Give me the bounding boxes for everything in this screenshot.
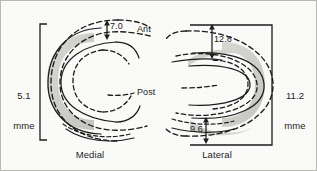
figure-container: 5.1 mme 7.0 Ant Post Medial 12.8 9.6 11.… <box>0 0 317 171</box>
lateral-height-units: mme <box>279 121 311 131</box>
medial-anterior-tail-dashed <box>103 50 129 64</box>
medial-height-dimension: 5.1 mme <box>10 70 38 152</box>
medial-mid-contour-solid <box>116 42 139 58</box>
lateral-gap-value-128: 12.8 <box>214 35 232 45</box>
anatomical-contour-diagram <box>0 0 317 171</box>
medial-mid-contour-solid-lower <box>116 106 140 122</box>
lateral-gap-value-96: 9.6 <box>190 125 203 135</box>
anterior-label: Ant <box>137 25 151 35</box>
lateral-height-value: 11.2 <box>279 91 311 101</box>
lateral-outer-dashed-upper-tail <box>166 31 186 39</box>
lateral-panel-label: Lateral <box>186 150 248 160</box>
medial-posterior-leader-dashed <box>108 93 134 95</box>
lateral-height-dimension: 11.2 mme <box>279 70 311 152</box>
medial-lumen-contour-dashed <box>73 50 103 112</box>
medial-gap-value-7: 7.0 <box>110 22 123 32</box>
medial-height-value: 5.1 <box>10 91 38 101</box>
lateral-mid-leader-dashed <box>182 85 218 88</box>
medial-posterior-tail-dashed <box>103 96 131 112</box>
posterior-label: Post <box>137 88 155 98</box>
medial-panel-label: Medial <box>60 150 120 160</box>
medial-panel-graphics <box>40 20 150 141</box>
medial-height-bracket <box>40 24 47 140</box>
medial-height-units: mme <box>10 121 38 131</box>
